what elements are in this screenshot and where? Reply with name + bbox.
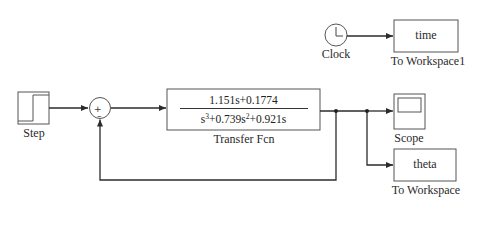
transfer-fcn-label: Transfer Fcn: [203, 132, 285, 147]
tf-fraction-bar: [180, 108, 308, 109]
to-workspace-variable: theta: [394, 157, 456, 172]
step-label: Step: [13, 126, 55, 141]
junction-dot-feedback: [334, 109, 338, 113]
scope-block[interactable]: [394, 94, 425, 129]
tf-denominator: s3+0.739s2+0.921s: [201, 110, 287, 126]
transfer-fcn-expression: 1.151s+0.1774 s3+0.739s2+0.921s: [167, 89, 320, 130]
to-workspace-label: To Workspace: [388, 183, 464, 198]
junction-dot-branch: [365, 109, 369, 113]
clock-block[interactable]: [325, 24, 347, 46]
clock-label: Clock: [316, 47, 356, 62]
to-workspace1-variable: time: [394, 28, 458, 43]
scope-label: Scope: [387, 131, 431, 146]
step-block[interactable]: [18, 92, 49, 124]
to-workspace1-label: To Workspace1: [388, 54, 468, 69]
tf-numerator: 1.151s+0.1774: [205, 94, 281, 107]
sum-block[interactable]: + –: [90, 98, 111, 122]
